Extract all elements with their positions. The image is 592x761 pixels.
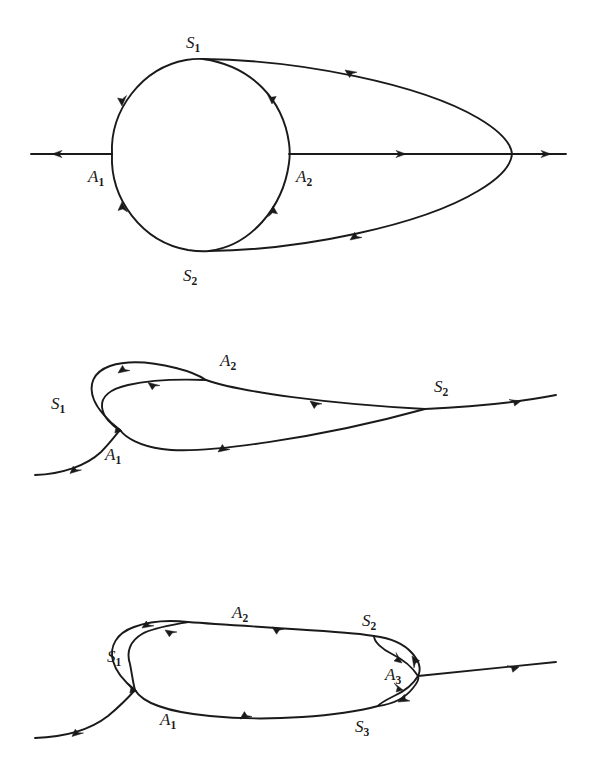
figure-2-canvas: A2 S1 S2 A1 <box>0 300 592 520</box>
arrowhead-upper-outer-to-S2 <box>310 401 322 409</box>
label-A3: A3 <box>384 665 401 686</box>
figure-phase-portrait-3: A2 S2 S1 A3 A1 S3 <box>0 520 592 761</box>
label-S3: S3 <box>355 717 370 738</box>
circle-upper-left-arc <box>112 59 203 154</box>
figure-phase-portrait-1: S1 A1 A2 S2 <box>0 0 592 300</box>
arrowhead-outgoing-right-tail <box>507 666 519 672</box>
circle-right-arc <box>203 59 290 251</box>
label-A1: A1 <box>159 710 176 731</box>
label-S1: S1 <box>51 394 66 415</box>
figure-3-canvas: A2 S2 S1 A3 A1 S3 <box>0 520 592 761</box>
arrowhead-left-cusp-outer <box>118 365 130 373</box>
label-S1: S1 <box>186 33 201 54</box>
outer-loop-upper-arc <box>203 59 512 154</box>
arrowhead-right-cusp-inner-upper <box>394 653 402 664</box>
figure-1-canvas: S1 A1 A2 S2 <box>0 0 592 300</box>
lower-loop-arc-to-S2 <box>120 409 425 450</box>
outgoing-right-tail <box>418 662 556 676</box>
incoming-lower-left-separatrix <box>35 690 135 738</box>
arrowhead-inner-upper-leftward <box>148 383 160 390</box>
label-S2: S2 <box>434 377 449 398</box>
diagram-page: S1 A1 A2 S2 <box>0 0 592 761</box>
figure-phase-portrait-2: A2 S1 S2 A1 <box>0 300 592 520</box>
label-S2: S2 <box>362 611 377 632</box>
label-S1: S1 <box>107 647 122 668</box>
lower-loop-arc-to-S3 <box>135 690 378 718</box>
circle-lower-left-arc <box>112 154 209 251</box>
label-A2: A2 <box>219 351 236 372</box>
upper-outer-arc-to-S2 <box>176 368 425 409</box>
label-A2: A2 <box>295 167 312 188</box>
label-A1: A1 <box>87 167 104 188</box>
inner-upper-arc-leftward <box>129 622 189 690</box>
label-S2: S2 <box>183 266 198 287</box>
arrowhead-inner-upper-leftward <box>165 630 177 637</box>
label-A2: A2 <box>231 603 248 624</box>
outer-loop-lower-arc <box>209 154 512 251</box>
label-A1: A1 <box>104 445 121 466</box>
